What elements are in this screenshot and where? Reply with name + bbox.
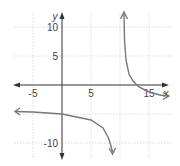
y-axis: [60, 12, 65, 160]
tick-labels: -5 5 15 10 5 -10 x y: [29, 11, 170, 149]
curve: [15, 12, 169, 154]
x-tick-label: 5: [88, 88, 94, 99]
function-graph: -5 5 15 10 5 -10 x y: [0, 0, 180, 166]
y-tick-label: -10: [44, 138, 59, 149]
x-tick-label: -5: [29, 88, 38, 99]
y-axis-label: y: [52, 11, 59, 22]
y-tick-label: 10: [47, 22, 59, 33]
x-axis: [13, 83, 169, 88]
y-tick-label: 5: [52, 51, 58, 62]
left-branch: [16, 112, 113, 153]
right-branch: [124, 14, 168, 96]
